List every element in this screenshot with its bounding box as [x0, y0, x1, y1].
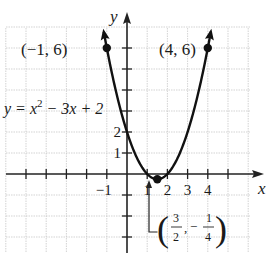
frac2-num: 1	[206, 211, 212, 225]
x-tick-label: 4	[204, 182, 212, 198]
tick-labels: −1123412	[96, 124, 212, 198]
x-tick-label: 2	[164, 182, 172, 198]
equation-lhs: y = x	[2, 100, 37, 118]
y-tick-label: 1	[114, 145, 122, 161]
grid	[6, 27, 250, 253]
equation-rhs: − 3x + 2	[43, 100, 104, 117]
right-paren: )	[215, 209, 227, 249]
y-axis-label: y	[108, 7, 118, 26]
frac1-den: 2	[173, 230, 179, 244]
annotations: x y (−1, 6) (4, 6) y = x2 − 3x + 2 ( 3 2…	[2, 7, 266, 249]
point-label-4-6: (4, 6)	[159, 40, 196, 59]
points-layer	[103, 44, 212, 184]
vertex-point	[153, 175, 161, 183]
labeled-point	[103, 44, 111, 52]
x-tick-label: −1	[96, 182, 112, 198]
point-label-neg1-6: (−1, 6)	[21, 40, 67, 59]
equation-label: y = x2 − 3x + 2	[2, 97, 103, 118]
x-axis-label: x	[257, 179, 266, 198]
frac1-num: 3	[173, 211, 179, 225]
y-tick-label: 2	[114, 124, 122, 140]
left-paren: (	[157, 209, 169, 249]
labeled-point	[204, 44, 212, 52]
parabola-chart: −1123412 x y (−1, 6) (4, 6) y = x2 − 3x …	[0, 0, 274, 253]
frac2-den: 4	[205, 230, 211, 244]
minus-sign: −	[190, 219, 197, 234]
x-tick-label: 3	[184, 182, 192, 198]
comma: ,	[184, 220, 187, 235]
vertex-coordinate-label: ( 3 2 , − 1 4 )	[157, 209, 227, 249]
